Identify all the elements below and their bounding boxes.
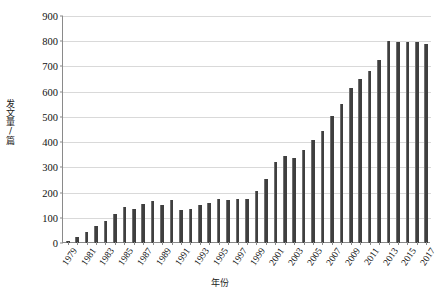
- x-axis-tick-label: 2005: [305, 246, 324, 267]
- x-axis-tick-mark: [190, 242, 191, 245]
- bar-chart: 发文量/篇 0100200300400500600700800900 19791…: [0, 0, 440, 299]
- y-axis-tick-label: 300: [42, 162, 58, 173]
- bar: [415, 42, 419, 243]
- x-axis-title-text: 年份: [211, 278, 229, 288]
- x-axis-tick-mark: [238, 242, 239, 245]
- x-axis-tick-mark: [162, 242, 163, 245]
- y-axis-title: 发文量/篇: [2, 0, 18, 243]
- y-axis-tick-label: 0: [53, 238, 58, 249]
- bar: [340, 104, 344, 243]
- x-axis-tick-label: 1991: [173, 246, 192, 267]
- x-axis-tick-mark: [124, 242, 125, 245]
- bar: [217, 199, 221, 243]
- bar: [387, 41, 391, 243]
- x-axis-tick-label: 2017: [418, 246, 437, 267]
- x-axis-tick-label: 2001: [267, 246, 286, 267]
- plot-area: 0100200300400500600700800900 19791981198…: [62, 16, 430, 243]
- x-axis-tick-mark: [219, 242, 220, 245]
- y-axis-tick-label: 100: [42, 212, 58, 223]
- x-axis-tick-mark: [389, 242, 390, 245]
- x-axis-tick-label: 1985: [116, 246, 135, 267]
- x-axis-tick-mark: [294, 242, 295, 245]
- x-axis-tick-mark: [68, 242, 69, 245]
- bar-series: [63, 16, 431, 243]
- y-axis-tick-label: 700: [42, 61, 58, 72]
- bar: [141, 204, 145, 243]
- bar: [377, 60, 381, 243]
- x-axis-title: 年份: [0, 276, 440, 289]
- bar: [358, 79, 362, 243]
- x-axis-tick-mark: [360, 242, 361, 245]
- bar: [189, 209, 193, 243]
- x-axis-tick-label: 2013: [381, 246, 400, 267]
- x-axis-tick-mark: [407, 242, 408, 245]
- x-axis-tick-mark: [87, 242, 88, 245]
- x-axis-tick-mark: [181, 242, 182, 245]
- bar: [207, 203, 211, 243]
- x-axis-tick-mark: [266, 242, 267, 245]
- bar: [264, 179, 268, 243]
- bar: [330, 116, 334, 243]
- bar: [302, 150, 306, 243]
- x-axis-tick-label: 1983: [98, 246, 117, 267]
- bar: [245, 199, 249, 243]
- bar: [236, 199, 240, 243]
- x-axis-tick-label: 1987: [135, 246, 154, 267]
- x-axis-tick-mark: [115, 242, 116, 245]
- x-axis-tick-mark: [247, 242, 248, 245]
- x-axis-tick-mark: [209, 242, 210, 245]
- x-axis-tick-label: 2009: [343, 246, 362, 267]
- bar: [321, 131, 325, 243]
- bar: [274, 162, 278, 243]
- x-axis-tick-mark: [153, 242, 154, 245]
- bar: [424, 44, 428, 243]
- x-axis-tick-mark: [398, 242, 399, 245]
- x-axis-tick-mark: [426, 242, 427, 245]
- bar: [226, 200, 230, 243]
- bar: [406, 42, 410, 243]
- x-axis-tick-label: 1979: [60, 246, 79, 267]
- x-axis-tick-label: 2011: [362, 246, 381, 267]
- bar: [179, 210, 183, 243]
- bar: [94, 226, 98, 243]
- x-axis-tick-mark: [96, 242, 97, 245]
- bar: [292, 158, 296, 243]
- y-axis-tick-label: 600: [42, 86, 58, 97]
- bar: [311, 140, 315, 243]
- bar: [283, 156, 287, 243]
- y-axis-tick-label: 200: [42, 187, 58, 198]
- x-axis-tick-mark: [77, 242, 78, 245]
- x-axis-tick-label: 1981: [79, 246, 98, 267]
- x-axis-tick-mark: [105, 242, 106, 245]
- x-axis-tick-label: 2007: [324, 246, 343, 267]
- bar: [170, 200, 174, 243]
- bar: [160, 205, 164, 243]
- y-axis-tick-label: 800: [42, 36, 58, 47]
- bar: [396, 42, 400, 243]
- x-axis-tick-mark: [379, 242, 380, 245]
- x-axis-tick-mark: [228, 242, 229, 245]
- bar: [151, 201, 155, 243]
- x-axis-tick-mark: [256, 242, 257, 245]
- x-axis-tick-label: 1999: [249, 246, 268, 267]
- bar: [349, 88, 353, 243]
- bar: [198, 205, 202, 243]
- x-axis-tick-label: 2003: [286, 246, 305, 267]
- x-axis-tick-mark: [143, 242, 144, 245]
- x-axis-tick-mark: [134, 242, 135, 245]
- x-axis-tick-label: 2015: [400, 246, 419, 267]
- bar: [255, 191, 259, 243]
- bar: [132, 209, 136, 243]
- bar: [368, 71, 372, 243]
- bar: [123, 207, 127, 243]
- x-axis-tick-mark: [370, 242, 371, 245]
- x-axis-tick-mark: [285, 242, 286, 245]
- bar: [113, 214, 117, 243]
- x-axis-tick-label: 1989: [154, 246, 173, 267]
- x-axis-tick-mark: [341, 242, 342, 245]
- x-axis-tick-mark: [417, 242, 418, 245]
- y-axis-tick-label: 500: [42, 111, 58, 122]
- x-axis-tick-mark: [172, 242, 173, 245]
- y-axis-title-text: 发文量/篇: [6, 99, 15, 145]
- bar: [104, 221, 108, 243]
